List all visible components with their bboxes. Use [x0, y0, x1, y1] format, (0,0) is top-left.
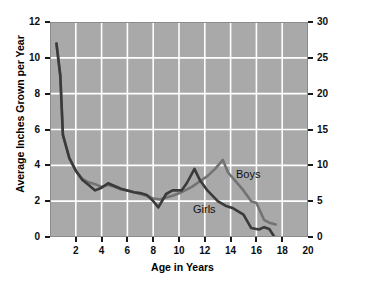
tickmark-left-0: [45, 236, 50, 238]
tickmark-right-0: [308, 236, 313, 238]
series-label-boys: Boys: [236, 168, 260, 180]
ticklabel-right-25: 25: [317, 53, 339, 63]
tickmark-right-30: [308, 21, 313, 23]
ticklabel-right-5: 5: [317, 196, 339, 206]
ticklabel-right-10: 10: [317, 160, 339, 170]
series-label-girls: Girls: [193, 203, 216, 215]
ticklabel-right-0: 0: [317, 232, 339, 242]
tickmark-bottom-6: [126, 237, 128, 242]
ticklabel-bottom-10: 10: [168, 246, 190, 256]
ticklabel-left-0: 0: [18, 232, 40, 242]
tickmark-bottom-12: [204, 237, 206, 242]
tickmark-bottom-16: [255, 237, 257, 242]
ticklabel-bottom-16: 16: [245, 246, 267, 256]
ticklabel-bottom-18: 18: [271, 246, 293, 256]
ticklabel-left-2: 2: [18, 196, 40, 206]
tickmark-right-15: [308, 129, 313, 131]
tickmark-bottom-8: [152, 237, 154, 242]
tickmark-left-10: [45, 57, 50, 59]
y-axis-left-title: Average Inches Grown per Year: [14, 34, 26, 194]
tickmark-left-12: [45, 21, 50, 23]
ticklabel-bottom-2: 2: [65, 246, 87, 256]
ticklabel-bottom-8: 8: [142, 246, 164, 256]
ticklabel-right-20: 20: [317, 89, 339, 99]
ticklabel-right-30: 30: [317, 17, 339, 27]
ticklabel-bottom-6: 6: [116, 246, 138, 256]
growth-rate-chart: 024681012 051015202530 2468101214161820 …: [0, 0, 365, 284]
tickmark-right-5: [308, 200, 313, 202]
tickmark-right-10: [308, 164, 313, 166]
tickmark-bottom-2: [75, 237, 77, 242]
tickmark-bottom-14: [230, 237, 232, 242]
ticklabel-bottom-12: 12: [194, 246, 216, 256]
tickmark-bottom-4: [101, 237, 103, 242]
ticklabel-left-12: 12: [18, 17, 40, 27]
tickmark-right-25: [308, 57, 313, 59]
tickmark-bottom-18: [281, 237, 283, 242]
tickmark-right-20: [308, 93, 313, 95]
ticklabel-bottom-14: 14: [220, 246, 242, 256]
ticklabel-right-15: 15: [317, 125, 339, 135]
tickmark-left-6: [45, 129, 50, 131]
plot-frame: [50, 22, 308, 237]
ticklabel-bottom-20: 20: [297, 246, 319, 256]
x-axis-title: Age in Years: [0, 261, 365, 273]
ticklabel-bottom-4: 4: [91, 246, 113, 256]
tickmark-bottom-10: [178, 237, 180, 242]
tickmark-left-2: [45, 200, 50, 202]
tickmark-left-4: [45, 164, 50, 166]
tickmark-left-8: [45, 93, 50, 95]
